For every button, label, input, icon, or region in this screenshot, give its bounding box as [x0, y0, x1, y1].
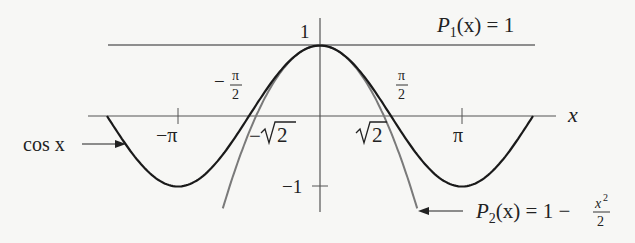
- svg-text:2: 2: [597, 214, 604, 229]
- svg-text:π: π: [232, 68, 239, 83]
- cos-x-label: cos x: [23, 133, 65, 155]
- svg-text:2: 2: [277, 123, 288, 147]
- svg-text:2: 2: [372, 123, 383, 147]
- p2-label: P2(x) = 1 −: [475, 199, 570, 226]
- svg-text:2: 2: [398, 87, 405, 102]
- y-tick-label-one: 1: [300, 21, 310, 42]
- p2-fraction: x 2 2: [593, 192, 610, 229]
- neg-half-pi-label: − π 2: [214, 68, 242, 102]
- neg-sqrt2-label: − 2: [249, 122, 296, 148]
- svg-text:2: 2: [232, 87, 239, 102]
- half-pi-label: π 2: [396, 68, 408, 102]
- x-tick-label-pi: π: [453, 124, 463, 146]
- svg-text:2: 2: [603, 192, 608, 203]
- y-tick-label-neg-one: −1: [282, 176, 302, 197]
- x-axis-label: x: [567, 102, 578, 127]
- p2-arrow: [418, 207, 463, 215]
- svg-text:x: x: [594, 196, 602, 211]
- sqrt2-label: 2: [356, 122, 387, 147]
- svg-text:π: π: [398, 68, 405, 83]
- svg-text:−: −: [249, 124, 261, 148]
- x-tick-label-neg-pi: −π: [156, 124, 177, 146]
- p1-label: P1(x) = 1: [436, 13, 514, 40]
- taylor-approximation-chart: 1 −1 x −π π − π 2 π 2 − 2 2 cos x P1(x) …: [0, 0, 635, 243]
- cos-arrow: [82, 140, 126, 148]
- svg-text:−: −: [214, 71, 225, 92]
